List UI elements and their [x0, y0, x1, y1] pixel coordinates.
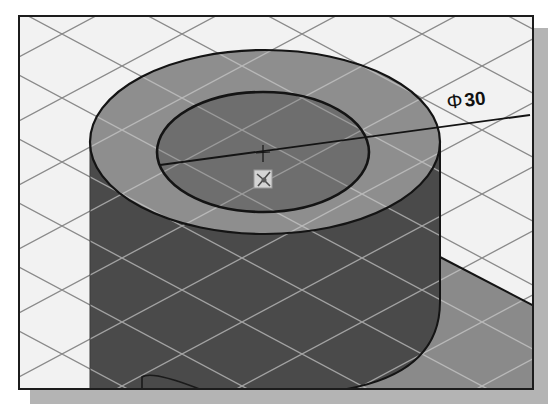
diameter-symbol: Φ [445, 89, 464, 113]
model-canvas[interactable] [20, 17, 534, 390]
cad-viewport[interactable]: Φ30 [18, 15, 534, 390]
dimension-value: 30 [463, 87, 487, 110]
diameter-dimension-label[interactable]: Φ30 [445, 86, 487, 114]
origin-triad-icon[interactable] [254, 170, 272, 188]
